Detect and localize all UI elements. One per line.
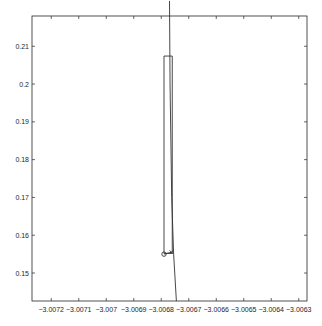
y-tick-label: 0.18 bbox=[15, 156, 29, 163]
x-tick-label: −3.0067 bbox=[176, 306, 202, 313]
x-tick-label: −3.0065 bbox=[231, 306, 257, 313]
y-tick-label: 0.21 bbox=[15, 43, 29, 50]
y-axis: 0.150.160.170.180.190.20.21 bbox=[15, 43, 307, 277]
y-tick-label: 0.15 bbox=[15, 270, 29, 277]
y-tick-label: 0.19 bbox=[15, 118, 29, 125]
x-tick-label: −3.0064 bbox=[259, 306, 285, 313]
x-axis: −3.0072−3.0071−3.007−3.0069−3.0068−3.006… bbox=[39, 16, 312, 313]
x-tick-label: −3.007 bbox=[95, 306, 117, 313]
y-tick-label: 0.17 bbox=[15, 194, 29, 201]
plot-area bbox=[0, 1, 322, 326]
x-tick-label: −3.0069 bbox=[121, 306, 147, 313]
curve-line bbox=[170, 1, 177, 301]
y-tick-label: 0.2 bbox=[19, 81, 29, 88]
x-tick-label: −3.0068 bbox=[149, 306, 175, 313]
x-tick-label: −3.0072 bbox=[39, 306, 65, 313]
x-tick-label: −3.0066 bbox=[204, 306, 230, 313]
x-tick-label: −3.0063 bbox=[286, 306, 312, 313]
y-tick-label: 0.16 bbox=[15, 232, 29, 239]
chart: −3.0072−3.0071−3.007−3.0069−3.0068−3.006… bbox=[0, 0, 322, 326]
x-tick-label: −3.0071 bbox=[66, 306, 92, 313]
